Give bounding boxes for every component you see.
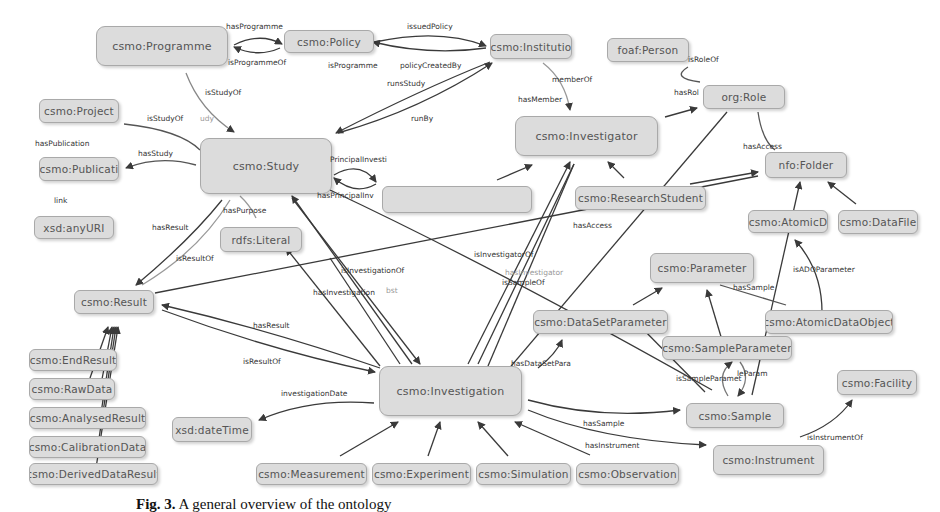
edge-label-is-investigator-of: isInvestigatorOf [474, 250, 533, 259]
node-literal[interactable]: rdfs:Literal [220, 227, 302, 252]
edge-label-has-study: hasStudy [138, 149, 173, 158]
edge-label-is-study-of-2: isStudyOf [147, 114, 183, 123]
figure-caption: Fig. 3. A general overview of the ontolo… [136, 496, 391, 512]
node-instrument[interactable]: csmo:Instrument [713, 445, 824, 475]
edge-label-has-access-1: hasAccess [743, 142, 782, 151]
edge-label-investigation-date: investigationDate [281, 389, 347, 398]
edge-label-has-sample-1: hasSample [733, 283, 774, 292]
edge-label-has-access-2: hasAccess [573, 221, 612, 230]
edge-label-has-programme: hasProgramme [226, 22, 283, 31]
caption-label: Fig. 3. [136, 496, 176, 512]
node-dataset-parameter[interactable]: csmo:DataSetParameter [533, 310, 668, 334]
edge-label-run-by: runBy [411, 114, 433, 123]
node-investigator[interactable]: csmo:Investigator [515, 116, 658, 156]
ontology-diagram: csmo:Programme csmo:Policy csmo:Institut… [0, 0, 940, 512]
edge-label-le-param: leParam [737, 369, 767, 378]
node-observation[interactable]: csmo:Observation [576, 463, 679, 485]
node-measurement[interactable]: csmo:Measurement [256, 463, 367, 485]
node-policy[interactable]: csmo:Policy [284, 30, 374, 53]
edge-label-has-member: hasMember [518, 95, 562, 104]
node-simulation[interactable]: csmo:Simulation [476, 463, 571, 485]
edge-label-is-programme-2: isProgramme [328, 61, 378, 70]
node-parameter[interactable]: csmo:Parameter [650, 253, 754, 283]
node-investigation[interactable]: csmo:Investigation [379, 366, 522, 416]
edge-label-is-add-parameter: isADOParameter [793, 265, 855, 274]
node-anyuri[interactable]: xsd:anyURI [34, 216, 114, 239]
node-sample[interactable]: csmo:Sample [686, 403, 784, 428]
node-raw-data[interactable]: csmo:RawData [29, 378, 115, 400]
edge-label-has-investigator: hasInvestigator [505, 268, 563, 277]
node-atomic-cd[interactable]: csmo:AtomicD [748, 210, 828, 233]
node-end-result[interactable]: csmo:EndResult [29, 349, 117, 371]
caption-text: A general overview of the ontology [179, 496, 392, 512]
edge-label-is-study-of-1: isStudyOf [205, 88, 241, 97]
edge-label-is-instrument-of: isInstrumentOf [807, 433, 863, 442]
node-calibration-data[interactable]: csmo:CalibrationData [29, 436, 146, 458]
edge-label-is-role-of: isRoleOf [688, 55, 719, 64]
node-sample-parameter[interactable]: csmo:SampleParameter [662, 336, 792, 360]
edge-label-bst: bst [386, 286, 398, 295]
edge-label-link: link [54, 196, 67, 205]
node-programme[interactable]: csmo:Programme [96, 26, 228, 66]
edge-label-has-result-2: hasResult [253, 321, 289, 330]
edge-label-is-result-of-2: isResultOf [243, 357, 281, 366]
edge-label-study-short: udy [200, 114, 214, 123]
edge-label-has-result-1: hasResult [152, 223, 188, 232]
edge-label-has-role: hasRol [674, 88, 699, 97]
edge-label-has-investigation: hasInvestigation [313, 288, 375, 297]
edge-label-has-purpose: hasPurpose [223, 206, 266, 215]
edge-label-has-instrument: hasInstrument [585, 441, 640, 450]
edge-label-principal-investi: PrincipalInvesti [330, 155, 387, 164]
node-study[interactable]: csmo:Study [200, 138, 332, 194]
node-facility[interactable]: csmo:Facility [837, 370, 917, 395]
node-result[interactable]: csmo:Result [74, 290, 154, 314]
node-experiment[interactable]: csmo:Experiment [372, 463, 471, 485]
node-publication[interactable]: csmo:Publicati [39, 157, 119, 181]
edge-label-is-sample-paramet: isSampleParamet [676, 374, 741, 383]
edge-label-runs-study: runsStudy [387, 79, 425, 88]
edge-label-member-of: memberOf [552, 75, 592, 84]
edge-label-policy-created-by: policyCreatedBy [400, 61, 461, 70]
edge-label-has-dataset-para: hasDataSetPara [511, 359, 571, 368]
node-role[interactable]: org:Role [703, 85, 785, 109]
node-research-student[interactable]: csmo:ResearchStudent [575, 186, 706, 210]
edge-label-is-sample-of: isSampleOf [502, 278, 545, 287]
edge-label-is-programme-of: isProgrammeOf [228, 58, 286, 67]
node-institution[interactable]: csmo:Institutio [490, 34, 572, 59]
node-folder[interactable]: nfo:Folder [765, 152, 847, 178]
node-project[interactable]: csmo:Project [39, 99, 119, 123]
node-analysed-result[interactable]: csmo:AnalysedResult [29, 407, 146, 429]
node-atomic-data-object[interactable]: csmo:AtomicDataObject [765, 310, 893, 334]
edge-label-issued-policy: issuedPolicy [407, 22, 453, 31]
edge-label-has-sample-2: hasSample [583, 419, 624, 428]
node-principle-investigator[interactable] [382, 186, 532, 213]
edge-label-is-investigation-of: isInvestigationOf [341, 266, 404, 275]
node-datafile[interactable]: csmo:DataFile [838, 210, 918, 234]
node-person[interactable]: foaf:Person [607, 38, 689, 62]
node-datetime[interactable]: xsd:dateTime [172, 417, 252, 442]
node-derived-data-result[interactable]: csmo:DerivedDataResult [29, 463, 158, 485]
edge-label-has-principal-inv: hasPrincipalInv [317, 191, 374, 200]
edge-label-is-result-of-1: isResultOf [176, 254, 214, 263]
edge-label-has-publication: hasPublication [35, 139, 89, 148]
